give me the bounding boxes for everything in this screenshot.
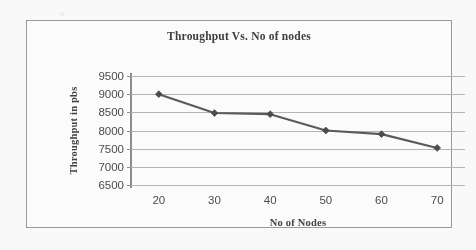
data-point-marker bbox=[322, 127, 329, 134]
x-axis-tick-label: 60 bbox=[375, 194, 388, 206]
data-point-marker bbox=[378, 131, 385, 138]
y-axis-tick-label: 7500 bbox=[98, 143, 124, 155]
x-axis-tick-label: 70 bbox=[431, 194, 444, 206]
series-line bbox=[159, 94, 437, 148]
x-axis-tick-label: 40 bbox=[264, 194, 277, 206]
plot-area: 9500900085008000750070006500 20304050607… bbox=[131, 76, 465, 185]
data-point-marker bbox=[211, 110, 218, 117]
chart-title: Throughput Vs. No of nodes bbox=[27, 30, 451, 42]
y-axis-title-label: Throughput in pbs bbox=[69, 86, 80, 174]
y-axis-title: Throughput in pbs bbox=[67, 71, 81, 189]
chart-container: Throughput Vs. No of nodes Throughput in… bbox=[26, 20, 452, 228]
y-axis-tick-label: 9500 bbox=[98, 70, 124, 82]
data-point-marker bbox=[155, 91, 162, 98]
y-axis-tick-label: 9000 bbox=[98, 88, 124, 100]
x-axis-tick-label: 50 bbox=[319, 194, 332, 206]
data-point-marker bbox=[434, 145, 441, 152]
x-axis-tick-label: 30 bbox=[208, 194, 221, 206]
y-axis-tick-label: 8500 bbox=[98, 106, 124, 118]
y-axis-tick-label: 7000 bbox=[98, 161, 124, 173]
y-axis-tick-label: 8000 bbox=[98, 125, 124, 137]
x-axis-title: No of Nodes bbox=[131, 217, 465, 228]
y-axis-tick-label: 6500 bbox=[98, 179, 124, 191]
y-tick-mark bbox=[127, 185, 131, 186]
data-point-marker bbox=[267, 111, 274, 118]
gridline bbox=[131, 185, 465, 186]
x-axis-tick-label: 20 bbox=[152, 194, 165, 206]
data-series bbox=[131, 76, 465, 185]
